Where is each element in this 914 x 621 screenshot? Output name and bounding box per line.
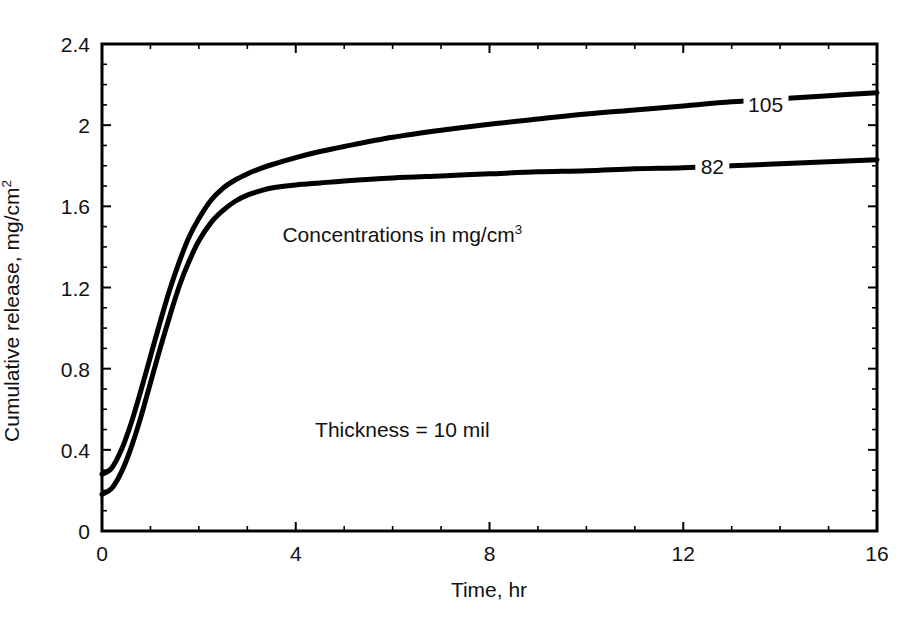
major-tick-marks xyxy=(102,44,877,531)
y-tick-label: 2.4 xyxy=(30,34,90,55)
x-tick-label: 4 xyxy=(290,543,302,564)
y-tick-label: 0 xyxy=(30,521,90,542)
y-axis-title-superscript: 2 xyxy=(0,180,14,187)
y-tick-label: 0.8 xyxy=(30,358,90,379)
series-label-82: 82 xyxy=(696,153,729,178)
thickness-note: Thickness = 10 mil xyxy=(315,418,489,442)
series-label-105: 105 xyxy=(743,91,788,116)
y-tick-label: 2 xyxy=(30,115,90,136)
x-tick-label: 8 xyxy=(484,543,496,564)
curve-82 xyxy=(102,160,877,495)
concentration-units-note-text: Concentrations in mg/cm xyxy=(282,223,514,246)
chart-figure: 00.40.81.21.622.4 0481216 Cumulative rel… xyxy=(0,0,914,621)
concentration-units-note-superscript: 3 xyxy=(515,222,522,237)
y-tick-label: 1.2 xyxy=(30,277,90,298)
plot-frame-rect xyxy=(102,44,877,531)
axis-frame xyxy=(102,44,877,531)
y-tick-label: 1.6 xyxy=(30,196,90,217)
y-tick-label: 0.4 xyxy=(30,439,90,460)
x-tick-label: 0 xyxy=(96,543,108,564)
y-axis-title-text: Cumulative release, mg/cm xyxy=(0,187,23,441)
minor-tick-marks xyxy=(102,44,877,531)
concentration-units-note: Concentrations in mg/cm3 xyxy=(282,223,522,247)
y-axis-title: Cumulative release, mg/cm2 xyxy=(0,180,24,442)
x-tick-label: 16 xyxy=(865,543,888,564)
x-tick-label: 12 xyxy=(672,543,695,564)
x-axis-title: Time, hr xyxy=(451,578,527,602)
